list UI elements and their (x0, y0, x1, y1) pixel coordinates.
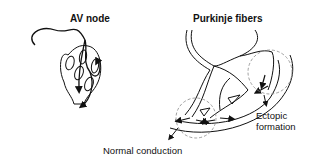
av-node-title: AV node (70, 14, 110, 24)
normal-conduction-label: Normal conduction (103, 146, 182, 156)
ectopic-label-line2: formation (256, 122, 296, 132)
diagram-canvas: AV node Purkinje fibers Normal conductio… (0, 0, 316, 161)
diagram-artwork (0, 0, 316, 161)
purkinje-fibers-title: Purkinje fibers (193, 14, 262, 24)
av-node-drawing (32, 29, 101, 106)
ectopic-label-line1: Ectopic (256, 111, 287, 121)
